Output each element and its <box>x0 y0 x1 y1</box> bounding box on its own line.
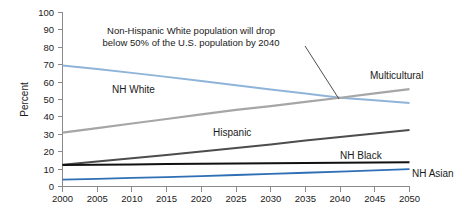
series-label-nh-asian: NH Asian <box>412 168 454 179</box>
series-label-nh-black: NH Black <box>340 150 383 161</box>
series-line-nh-black <box>63 162 410 165</box>
y-tick-label: 10 <box>43 164 54 175</box>
population-projection-chart: 100 90 80 70 60 50 40 30 20 10 0 Percent <box>0 0 474 211</box>
x-tick-label: 2025 <box>225 193 246 204</box>
x-tick-label: 2050 <box>399 193 420 204</box>
y-tick-label: 80 <box>43 42 54 53</box>
x-tick-label: 2015 <box>156 193 177 204</box>
x-axis-ticks <box>63 187 410 192</box>
series-line-nh-asian <box>63 169 410 179</box>
y-tick-label: 50 <box>43 94 54 105</box>
series-label-nh-white: NH White <box>112 84 155 95</box>
y-axis-ticks <box>58 13 63 187</box>
x-tick-label: 2010 <box>121 193 142 204</box>
annotation-leader-line <box>305 46 339 99</box>
x-tick-label: 2040 <box>330 193 351 204</box>
annotation-line-2: below 50% of the U.S. population by 2040 <box>103 37 280 48</box>
y-tick-label: 60 <box>43 77 54 88</box>
series-label-hispanic: Hispanic <box>213 127 251 138</box>
x-tick-label: 2045 <box>364 193 385 204</box>
x-tick-label: 2005 <box>87 193 108 204</box>
chart-canvas: 100 90 80 70 60 50 40 30 20 10 0 Percent <box>0 0 474 211</box>
y-tick-label: 90 <box>43 24 54 35</box>
data-series-group <box>63 66 410 180</box>
x-tick-label: 2030 <box>260 193 281 204</box>
y-axis-title: Percent <box>19 82 30 117</box>
y-axis-tick-labels: 100 90 80 70 60 50 40 30 20 10 0 <box>38 7 54 192</box>
x-axis-tick-labels: 2000 2005 2010 2015 2020 2025 2030 2035 … <box>52 193 420 204</box>
x-tick-label: 2020 <box>191 193 212 204</box>
annotation-line-1: Non-Hispanic White population will drop <box>107 25 275 36</box>
series-label-multicultural: Multicultural <box>370 70 423 81</box>
y-tick-label: 70 <box>43 59 54 70</box>
y-tick-label: 30 <box>43 129 54 140</box>
x-tick-label: 2000 <box>52 193 73 204</box>
y-tick-label: 40 <box>43 111 54 122</box>
y-tick-label: 20 <box>43 146 54 157</box>
x-tick-label: 2035 <box>295 193 316 204</box>
y-tick-label: 0 <box>49 181 54 192</box>
y-tick-label: 100 <box>38 7 54 18</box>
